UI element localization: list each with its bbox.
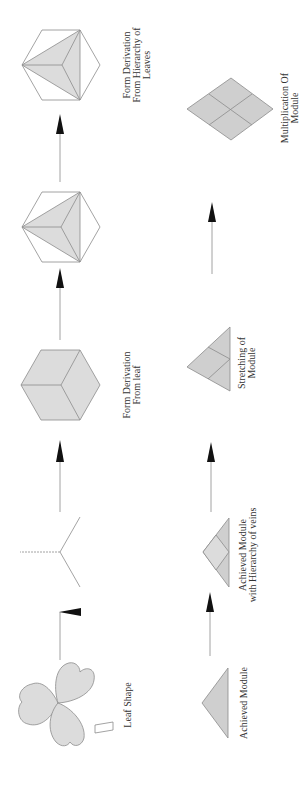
label-stretching-module: Stretching of Module xyxy=(237,337,257,389)
label-form-derivation-from-leaf: Form Derivation From leaf xyxy=(122,352,142,419)
arrow-head-icon xyxy=(207,442,215,462)
arrow-head-icon xyxy=(56,114,64,134)
stretching-module-icon xyxy=(187,327,230,391)
module-veins-icon xyxy=(203,518,229,587)
hexagon-triangle-icon-1 xyxy=(22,192,100,262)
leaf-shape-icon xyxy=(19,663,113,746)
cube-hexagon-icon xyxy=(21,350,100,420)
label-achieved-module-veins: Achieved Module with Hierarchy of veins xyxy=(238,508,258,603)
label-leaf-shape: Leaf Shape xyxy=(123,682,133,727)
arrow-head-icon xyxy=(56,268,64,288)
arrow-head-icon xyxy=(56,440,64,462)
achieved-module-icon xyxy=(202,668,228,738)
arrow-head-icon xyxy=(206,592,214,612)
hexagon-triangle-icon-2 xyxy=(22,30,100,100)
multiplication-module-icon xyxy=(187,78,273,140)
veins-icon xyxy=(20,517,80,587)
label-multiplication-module: Multiplication Of Module xyxy=(280,73,300,143)
label-form-derivation-hierarchy: Form Derivation From Hierarchy of Leaves xyxy=(122,28,152,103)
diagram-canvas xyxy=(0,0,303,796)
label-achieved-module: Achieved Module xyxy=(239,667,249,739)
arrow-head-icon xyxy=(208,202,216,222)
